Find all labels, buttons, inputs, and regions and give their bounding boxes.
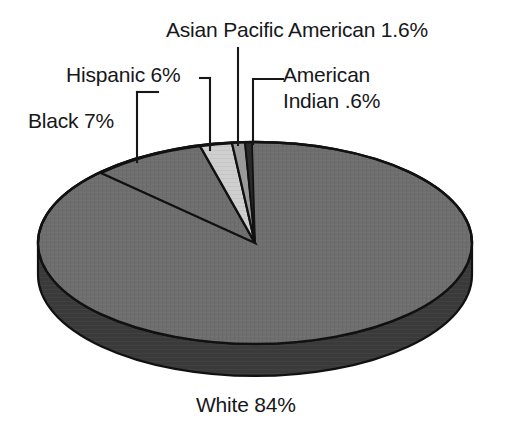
label-black: Black 7%	[28, 108, 114, 134]
pie-top-face	[38, 142, 472, 344]
pie-chart: Asian Pacific American 1.6% Hispanic 6% …	[0, 0, 506, 429]
label-asian-pacific-american: Asian Pacific American 1.6%	[166, 17, 428, 43]
label-american-indian: AmericanIndian .6%	[283, 62, 433, 114]
label-hispanic: Hispanic 6%	[66, 62, 181, 88]
label-white: White 84%	[196, 392, 296, 418]
label-american-indian-line2: Indian .6%	[283, 88, 433, 114]
label-american-indian-line1: American	[283, 63, 370, 86]
leader-line-american-indian	[253, 79, 283, 144]
